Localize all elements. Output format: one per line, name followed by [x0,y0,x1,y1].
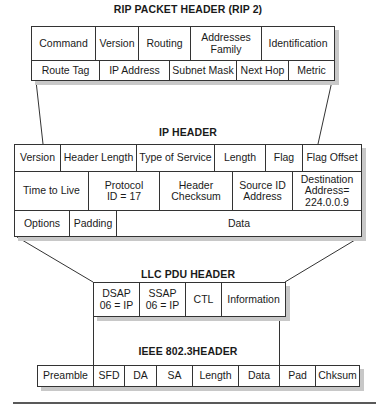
llc-header-title: LLC PDU HEADER [0,268,376,280]
llc-field-ssap: SSAP 06 = IP [140,283,186,316]
rip-field-routing: Routing [139,27,191,60]
ieee-field-sa: SA [157,366,193,386]
rip-field-next-hop: Next Hop [237,61,289,81]
ip-field-padding: Padding [70,211,117,237]
ip-row-3: Options Padding Data [15,210,361,237]
ip-field-data: Data [117,211,361,237]
rip-field-metric: Metric [289,61,334,81]
llc-field-dsap: DSAP 06 = IP [94,283,140,316]
rip-field-command: Command [32,27,96,60]
ieee-field-length: Length [193,366,239,386]
rip-field-version: Version [96,27,139,60]
rip-header-table: Command Version Routing Addresses Family… [31,26,335,81]
ip-field-protocol-id: Protocol ID = 17 [89,172,160,210]
ieee-field-pad: Pad [280,366,316,386]
ip-field-source-id-address: Source ID Address [233,172,293,210]
ieee-row-1: Preamble SFD DA SA Length Data Pad Chksu… [38,366,359,386]
ieee-field-preamble: Preamble [38,366,94,386]
llc-header-table: DSAP 06 = IP SSAP 06 = IP CTL Informatio… [93,282,286,317]
ip-header-title: IP HEADER [0,126,376,138]
rip-header-title: RIP PACKET HEADER (RIP 2) [0,3,376,15]
ip-row-2: Time to Live Protocol ID = 17 Header Che… [15,171,361,210]
ieee-field-sfd: SFD [94,366,125,386]
rip-field-identification: Identification [262,27,334,60]
rip-field-route-tag: Route Tag [32,61,100,81]
ieee-header-table: Preamble SFD DA SA Length Data Pad Chksu… [37,365,360,387]
ip-field-header-checksum: Header Checksum [160,172,233,210]
ip-field-type-of-service: Type of Service [137,145,215,171]
ieee-field-data: Data [239,366,280,386]
rip-row-1: Command Version Routing Addresses Family… [32,27,334,60]
rip-field-subnet-mask: Subnet Mask [170,61,237,81]
ip-field-header-length: Header Length [61,145,137,171]
ip-field-destination-address: Destination Address= 224.0.0.9 [293,172,361,210]
ieee-field-chksum: Chksum [316,366,359,386]
llc-row-1: DSAP 06 = IP SSAP 06 = IP CTL Informatio… [94,283,285,316]
ip-field-options: Options [15,211,70,237]
llc-field-information: Information [222,283,285,316]
ip-header-table: Version Header Length Type of Service Le… [14,144,362,237]
ieee-field-da: DA [125,366,157,386]
ip-field-length: Length [215,145,266,171]
rip-field-ip-address: IP Address [100,61,170,81]
ip-field-flag: Flag [266,145,303,171]
ieee-header-title: IEEE 802.3HEADER [0,345,376,357]
rip-row-2: Route Tag IP Address Subnet Mask Next Ho… [32,60,334,81]
ip-field-time-to-live: Time to Live [15,172,89,210]
ip-field-version: Version [15,145,61,171]
ip-field-flag-offset: Flag Offset [303,145,361,171]
llc-field-ctl: CTL [186,283,222,316]
rip-field-addresses-family: Addresses Family [191,27,262,60]
ip-row-1: Version Header Length Type of Service Le… [15,145,361,171]
